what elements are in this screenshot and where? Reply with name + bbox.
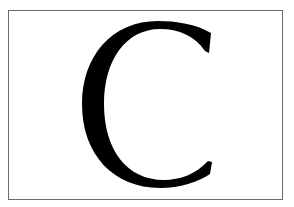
letter-c-glyph — [0, 0, 294, 207]
